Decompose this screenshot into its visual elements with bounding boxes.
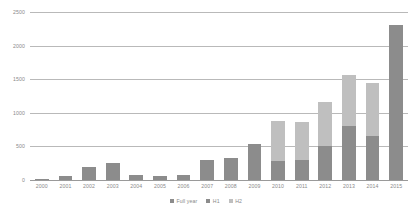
bar-2006[interactable] [177,175,191,180]
bar-slot-2004 [125,12,149,180]
legend-label: H1 [213,198,220,204]
bar-2003[interactable] [106,163,120,180]
bar-segment-full-year [59,176,73,180]
bar-segment-h2 [366,83,380,137]
legend-swatch-icon [170,199,174,203]
x-axis-tick-label: 2013 [337,181,361,193]
bar-segment-h2 [271,121,285,161]
y-axis-tick-label: 2000 [13,43,25,49]
bar-slot-2008 [219,12,243,180]
bar-segment-full-year [177,175,191,180]
legend-swatch-icon [229,199,233,203]
x-axis-tick-label: 2008 [219,181,243,193]
bar-segment-h1 [271,161,285,180]
bar-slot-2005 [148,12,172,180]
bar-segment-full-year [248,144,262,180]
legend-label: Full year [177,198,198,204]
bar-segment-full-year [153,176,167,180]
bar-segment-h1 [366,136,380,180]
bar-2007[interactable] [200,160,214,180]
legend-item-h1[interactable]: H1 [206,198,219,204]
bar-2010[interactable] [271,121,285,180]
bar-slot-2014 [361,12,385,180]
y-axis: 25002000150010005000 [0,12,28,180]
x-axis: 2000200120022003200420052006200720082009… [30,181,408,193]
bar-slot-2001 [54,12,78,180]
bar-segment-full-year [129,175,143,180]
x-axis-tick-label: 2006 [172,181,196,193]
y-axis-tick-label: 500 [16,143,25,149]
x-axis-tick-label: 2000 [30,181,54,193]
bar-slot-2000 [30,12,54,180]
bar-2015[interactable] [389,25,403,180]
bar-segment-h1 [389,25,403,180]
bar-series-group [30,12,408,180]
x-axis-tick-label: 2005 [148,181,172,193]
bar-slot-2013 [337,12,361,180]
bar-slot-2002 [77,12,101,180]
bar-slot-2012 [314,12,338,180]
x-axis-tick-label: 2009 [243,181,267,193]
bar-segment-h1 [318,146,332,180]
y-axis-tick-label: 0 [22,177,25,183]
bar-segment-h1 [295,160,309,180]
bar-2008[interactable] [224,158,238,180]
x-axis-tick-label: 2004 [125,181,149,193]
x-axis-tick-label: 2001 [54,181,78,193]
x-axis-tick-label: 2010 [266,181,290,193]
x-axis-tick-label: 2002 [77,181,101,193]
bar-2002[interactable] [82,167,96,180]
x-axis-tick-label: 2012 [314,181,338,193]
x-axis-tick-label: 2014 [361,181,385,193]
legend-item-full-year[interactable]: Full year [170,198,197,204]
plot-area [30,12,408,180]
bar-2000[interactable] [35,179,49,180]
y-axis-tick-label: 1500 [13,76,25,82]
bar-2005[interactable] [153,176,167,180]
y-axis-tick-label: 1000 [13,110,25,116]
bar-chart: 25002000150010005000 2000200120022003200… [0,0,412,216]
bar-2012[interactable] [318,102,332,180]
bar-segment-h2 [342,75,356,126]
legend-label: H2 [235,198,242,204]
bar-segment-full-year [106,163,120,180]
legend-swatch-icon [206,199,210,203]
legend-item-h2[interactable]: H2 [229,198,242,204]
x-axis-tick-label: 2011 [290,181,314,193]
bar-segment-full-year [200,160,214,180]
x-axis-tick-label: 2007 [195,181,219,193]
x-axis-tick-label: 2003 [101,181,125,193]
bar-slot-2010 [266,12,290,180]
bar-2004[interactable] [129,175,143,180]
bar-2013[interactable] [342,75,356,180]
bar-slot-2015 [384,12,408,180]
bar-slot-2006 [172,12,196,180]
bar-2014[interactable] [366,83,380,180]
bar-2001[interactable] [59,176,73,180]
bar-slot-2011 [290,12,314,180]
bar-segment-full-year [82,167,96,180]
bar-slot-2009 [243,12,267,180]
bar-segment-h1 [342,126,356,180]
bar-segment-full-year [224,158,238,180]
y-axis-tick-label: 2500 [13,9,25,15]
chart-legend: Full yearH1H2 [0,198,412,204]
bar-2011[interactable] [295,122,309,180]
x-axis-tick-label: 2015 [384,181,408,193]
bar-2009[interactable] [248,144,262,180]
bar-slot-2003 [101,12,125,180]
bar-segment-h2 [295,122,309,160]
bar-segment-h2 [318,102,332,146]
bar-slot-2007 [195,12,219,180]
bar-segment-full-year [35,179,49,180]
